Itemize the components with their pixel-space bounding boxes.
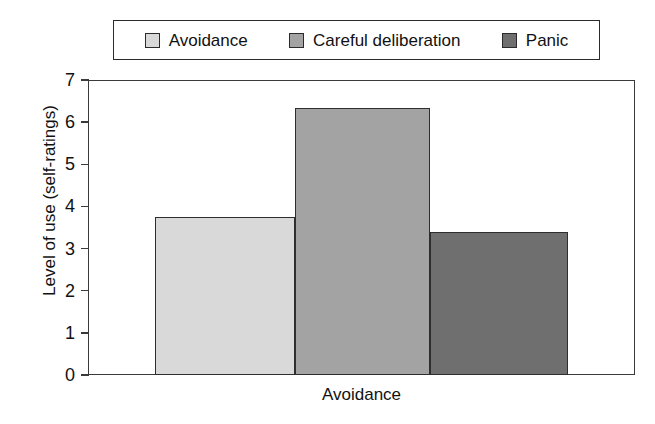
legend-item-avoidance: Avoidance	[145, 32, 248, 49]
legend-label-panic: Panic	[526, 32, 569, 49]
y-tick-label-0: 0	[35, 366, 75, 384]
bar-chart-figure: Avoidance Careful deliberation Panic 012…	[0, 0, 655, 424]
bar-careful-deliberation	[295, 108, 430, 375]
chart-legend: Avoidance Careful deliberation Panic	[113, 20, 600, 60]
bar-avoidance	[155, 217, 295, 375]
legend-swatch-panic	[502, 33, 517, 48]
legend-label-careful-deliberation: Careful deliberation	[313, 32, 460, 49]
bar-panic	[430, 232, 568, 375]
legend-item-panic: Panic	[502, 32, 569, 49]
legend-swatch-careful-deliberation	[289, 33, 304, 48]
y-axis-title: Level of use (self-ratings)	[41, 56, 58, 346]
bars-layer	[88, 80, 635, 375]
x-axis-label: Avoidance	[88, 386, 635, 403]
legend-swatch-avoidance	[145, 33, 160, 48]
legend-item-careful-deliberation: Careful deliberation	[289, 32, 460, 49]
legend-label-avoidance: Avoidance	[169, 32, 248, 49]
